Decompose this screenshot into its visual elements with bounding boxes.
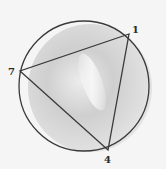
vertex-label-4: 4 — [104, 154, 111, 165]
diagram-canvas: 1 7 4 — [0, 0, 166, 169]
circle-triangle-figure: 1 7 4 — [0, 0, 166, 169]
vertex-label-1: 1 — [132, 24, 139, 35]
vertex-label-7: 7 — [8, 66, 15, 77]
